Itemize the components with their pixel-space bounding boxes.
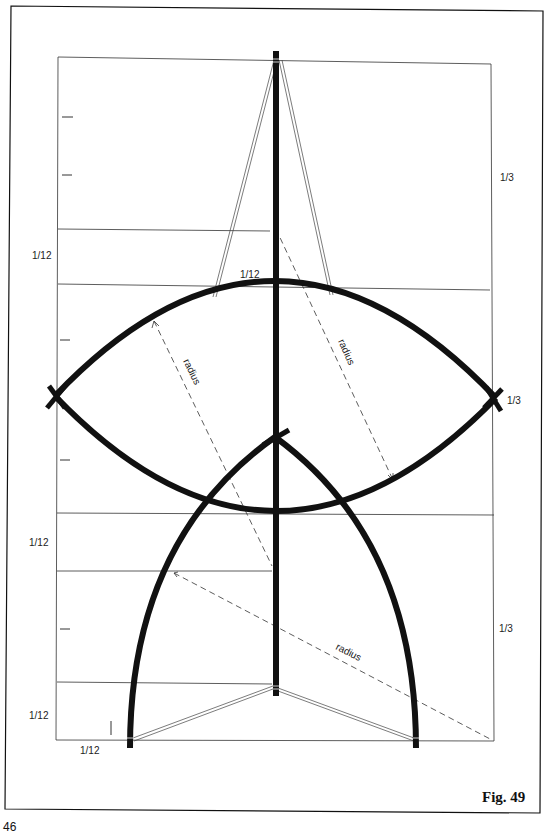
label-1-3-right-middle: 1/3 xyxy=(507,396,521,406)
radius-lines xyxy=(154,229,492,740)
radius-label-upper-right: radius xyxy=(336,337,357,366)
label-1-12-left-middle: 1/12 xyxy=(29,538,48,548)
kite-construction-diagram: radius radius radius xyxy=(0,0,548,837)
central-spar xyxy=(273,51,279,696)
radius-label-upper-left: radius xyxy=(181,357,203,386)
label-1-12-bottom: 1/12 xyxy=(80,746,99,756)
label-1-12-left-upper: 1/12 xyxy=(32,251,51,261)
page-number: 46 xyxy=(3,820,16,834)
label-1-12-left-lower: 1/12 xyxy=(29,711,48,721)
label-1-12-center: 1/12 xyxy=(240,270,259,280)
label-1-3-right-bottom: 1/3 xyxy=(499,624,513,634)
label-1-3-right-top: 1/3 xyxy=(500,173,514,183)
figure-caption: Fig. 49 xyxy=(482,789,525,806)
